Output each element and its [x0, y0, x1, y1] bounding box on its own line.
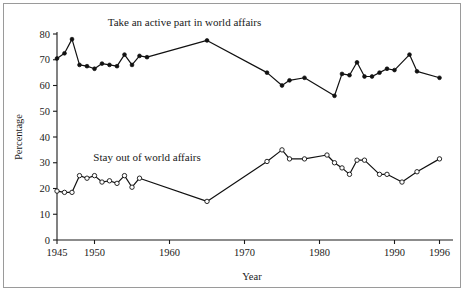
data-point-series-0 [70, 37, 74, 41]
data-point-series-1 [55, 189, 59, 193]
data-point-series-1 [77, 173, 81, 177]
x-axis-title: Year [242, 271, 262, 282]
data-point-series-1 [100, 180, 104, 184]
data-point-series-0 [85, 64, 89, 68]
data-point-series-0 [438, 76, 442, 80]
data-point-series-0 [393, 68, 397, 72]
data-point-series-1 [137, 176, 141, 180]
y-axis-title: Percentage [13, 114, 24, 160]
y-tick-label: 20 [40, 183, 51, 194]
data-point-series-1 [107, 179, 111, 183]
data-point-series-1 [385, 172, 389, 176]
data-point-series-1 [130, 185, 134, 189]
data-point-series-1 [415, 170, 419, 174]
data-point-series-0 [115, 64, 119, 68]
data-point-series-0 [138, 54, 142, 58]
data-point-series-1 [205, 199, 209, 203]
data-point-series-0 [123, 53, 127, 57]
data-point-series-0 [415, 69, 419, 73]
data-point-series-0 [78, 63, 82, 67]
data-point-series-0 [280, 84, 284, 88]
data-point-series-1 [362, 158, 366, 162]
data-point-series-1 [437, 157, 441, 161]
data-point-series-0 [378, 71, 382, 75]
data-point-series-0 [385, 67, 389, 71]
data-point-series-0 [63, 51, 67, 55]
x-tick-label: 1960 [159, 247, 180, 258]
data-point-series-1 [347, 172, 351, 176]
data-point-series-0 [108, 63, 112, 67]
y-tick-label: 50 [40, 106, 51, 117]
x-tick-label: 1945 [47, 247, 68, 258]
data-point-series-1 [280, 148, 284, 152]
data-point-series-1 [332, 161, 336, 165]
series-label-0: Take an active part in world affairs [108, 16, 262, 28]
data-point-series-1 [377, 172, 381, 176]
line-chart: 0102030405060708019451950196019701980199… [0, 0, 465, 292]
data-point-series-0 [348, 73, 352, 77]
data-point-series-0 [355, 60, 359, 64]
data-point-series-0 [265, 71, 269, 75]
data-point-series-1 [92, 173, 96, 177]
data-point-series-1 [62, 190, 66, 194]
data-point-series-0 [303, 76, 307, 80]
y-tick-label: 60 [40, 80, 51, 91]
x-tick-label: 1996 [429, 247, 450, 258]
data-point-series-0 [288, 78, 292, 82]
y-tick-label: 80 [40, 29, 51, 40]
data-point-series-1 [355, 158, 359, 162]
y-tick-label: 70 [40, 54, 51, 65]
data-point-series-1 [85, 176, 89, 180]
data-point-series-0 [333, 94, 337, 98]
x-tick-label: 1970 [234, 247, 255, 258]
data-point-series-1 [122, 173, 126, 177]
y-tick-label: 40 [40, 132, 51, 143]
data-point-series-0 [408, 53, 412, 57]
data-point-series-0 [130, 63, 134, 67]
y-tick-label: 10 [40, 209, 51, 220]
series-line-0 [57, 39, 440, 96]
data-point-series-0 [370, 75, 374, 79]
x-tick-label: 1950 [84, 247, 105, 258]
data-point-series-1 [265, 159, 269, 163]
data-point-series-0 [363, 75, 367, 79]
data-point-series-0 [100, 62, 104, 66]
data-point-series-1 [325, 153, 329, 157]
data-point-series-1 [70, 190, 74, 194]
y-tick-label: 0 [45, 235, 50, 246]
data-point-series-0 [55, 57, 59, 61]
data-point-series-0 [93, 67, 97, 71]
series-label-1: Stay out of world affairs [93, 151, 200, 163]
data-point-series-0 [340, 72, 344, 76]
x-tick-label: 1990 [384, 247, 405, 258]
data-point-series-1 [340, 166, 344, 170]
data-point-series-1 [287, 157, 291, 161]
data-point-series-1 [302, 157, 306, 161]
data-point-series-0 [205, 39, 209, 43]
data-point-series-0 [145, 55, 149, 59]
data-point-series-1 [115, 181, 119, 185]
y-tick-label: 30 [40, 157, 51, 168]
figure-container: 0102030405060708019451950196019701980199… [0, 0, 465, 292]
x-tick-label: 1980 [309, 247, 330, 258]
data-point-series-1 [400, 180, 404, 184]
